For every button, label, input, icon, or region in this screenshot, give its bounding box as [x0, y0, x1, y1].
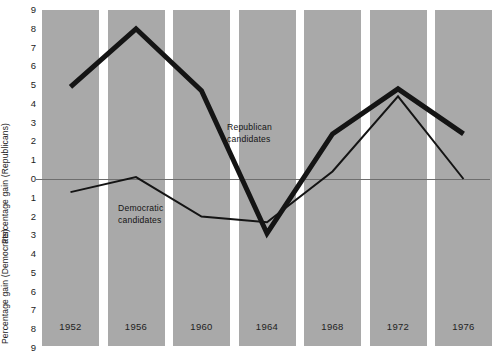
y-axis-title-democrats: Percentage gain (Democrats)	[0, 44, 10, 344]
y-axis-tick-label: 6	[22, 61, 36, 71]
x-axis-tick-label: 1976	[435, 321, 492, 332]
plot-area: 1952195619601964196819721976	[42, 10, 490, 346]
y-axis-tick-label: 4	[22, 99, 36, 109]
x-axis-tick-label: 1968	[304, 321, 361, 332]
annotation-democratic-candidates: Democratic candidates	[118, 203, 163, 226]
y-axis-tick-label: 6	[22, 287, 36, 297]
x-axis-tick-label: 1964	[239, 321, 296, 332]
y-axis-tick-label: 8	[22, 324, 36, 334]
y-axis-tick-label: 7	[22, 305, 36, 315]
y-axis-tick-label: 8	[22, 24, 36, 34]
y-axis-tick-label: 3	[22, 118, 36, 128]
chart-container: Percentage gain (Republicans) Percentage…	[0, 0, 503, 362]
y-axis-tick-label: 3	[22, 230, 36, 240]
x-axis-tick-label: 1972	[370, 321, 427, 332]
y-axis-tick-label: 5	[22, 80, 36, 90]
y-axis-tick-label: 7	[22, 43, 36, 53]
y-axis-tick-label: 5	[22, 268, 36, 278]
y-axis-tick-label: 0	[22, 174, 36, 184]
y-axis-tick-label: 9	[22, 343, 36, 353]
x-axis-tick-label: 1956	[108, 321, 165, 332]
zero-baseline-stub	[36, 179, 42, 180]
annotation-republican-candidates: Republican candidates	[227, 122, 272, 145]
y-axis-tick-label: 2	[22, 212, 36, 222]
y-axis-tick-label: 4	[22, 249, 36, 259]
y-axis-tick-label: 9	[22, 5, 36, 15]
y-axis-tick-label: 1	[22, 155, 36, 165]
y-axis-tick-label: 2	[22, 136, 36, 146]
y-axis-tick-label: 1	[22, 193, 36, 203]
x-axis-tick-label: 1960	[173, 321, 230, 332]
series-lines	[42, 10, 490, 346]
x-axis-tick-label: 1952	[42, 321, 99, 332]
